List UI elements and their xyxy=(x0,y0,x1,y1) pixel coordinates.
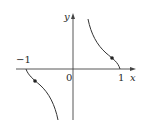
left-branch-curve xyxy=(26,69,58,120)
pos-one-label: 1 xyxy=(118,72,124,83)
x-axis-arrow-icon xyxy=(130,67,136,71)
function-graph: −1 1 0 x y xyxy=(0,0,145,136)
right-branch-curve xyxy=(88,19,120,69)
origin-label: 0 xyxy=(66,72,72,83)
right-branch-point xyxy=(110,56,114,60)
graph-canvas: −1 1 0 x y xyxy=(0,0,145,136)
y-axis-arrow-icon xyxy=(71,13,75,19)
y-axis-label: y xyxy=(63,11,70,22)
left-branch-point xyxy=(33,79,37,83)
x-axis-label: x xyxy=(130,72,136,83)
neg-one-label: −1 xyxy=(16,54,31,65)
